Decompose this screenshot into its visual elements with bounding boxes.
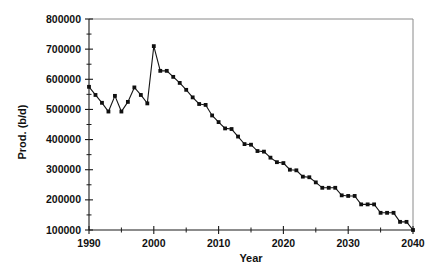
y-tick-label: 700000 [46,43,81,55]
data-point-marker [392,211,396,215]
data-point-marker [210,114,214,118]
data-point-marker [262,150,266,154]
data-point-marker [171,75,175,79]
data-point-marker [372,202,376,206]
data-point-marker [398,220,402,224]
axes [89,19,413,230]
data-point-marker [256,149,260,153]
data-point-marker [113,94,117,98]
data-point-marker [327,186,331,190]
series-line-production [89,46,413,230]
y-axis-title: Prod. (b/d) [16,104,28,159]
y-axis-tick-labels: 1000002000003000004000005000006000007000… [46,13,81,236]
data-point-marker [152,44,156,48]
data-point-marker [191,95,195,99]
x-tick-label: 2000 [142,237,166,249]
data-point-marker [87,85,91,89]
data-point-marker [294,168,298,172]
data-point-marker [385,211,389,215]
x-tick-label: 1990 [77,237,101,249]
data-point-marker [411,228,415,232]
data-point-marker [178,81,182,85]
data-point-marker [314,180,318,184]
data-point-marker [223,127,227,131]
data-point-marker [132,86,136,90]
data-point-marker [139,93,143,97]
data-point-marker [204,103,208,107]
x-tick-label: 2020 [272,237,296,249]
data-point-marker [353,194,357,198]
data-point-marker [359,202,363,206]
y-tick-label: 300000 [46,163,81,175]
data-point-marker [126,100,130,104]
data-point-marker [230,127,234,131]
data-point-marker [333,186,337,190]
data-point-marker [405,220,409,224]
y-tick-label: 500000 [46,103,81,115]
data-point-marker [301,175,305,179]
plot-frame [89,19,413,230]
data-point-marker [145,102,149,106]
data-point-marker [282,161,286,165]
data-point-marker [236,135,240,139]
x-tick-label: 2040 [401,237,425,249]
data-point-marker [100,101,104,105]
data-series-group [87,44,415,232]
y-tick-label: 400000 [46,133,81,145]
data-point-marker [249,143,253,147]
data-point-marker [340,193,344,197]
data-point-marker [379,211,383,215]
data-point-marker [366,202,370,206]
data-point-marker [269,156,273,160]
x-tick-label: 2030 [337,237,361,249]
data-point-marker [275,160,279,164]
data-point-marker [307,175,311,179]
y-tick-label: 600000 [46,73,81,85]
y-tick-label: 800000 [46,13,81,25]
data-point-marker [217,120,221,124]
data-point-marker [243,142,247,146]
data-point-marker [288,168,292,172]
x-axis-tick-labels: 199020002010202020302040 [77,237,425,249]
data-point-marker [346,194,350,198]
data-point-marker [165,69,169,73]
data-point-marker [197,102,201,106]
data-point-marker [94,93,98,97]
chart-figure: 1000002000003000004000005000006000007000… [0,0,446,276]
data-point-marker [184,88,188,92]
data-point-marker [158,69,162,73]
production-decline-line-chart: 1000002000003000004000005000006000007000… [0,0,446,276]
data-point-marker [120,110,124,114]
data-point-marker [320,186,324,190]
y-tick-label: 100000 [46,224,81,236]
x-axis-title: Year [239,252,263,264]
data-point-marker [107,110,111,114]
y-tick-label: 200000 [46,193,81,205]
x-tick-label: 2010 [207,237,231,249]
